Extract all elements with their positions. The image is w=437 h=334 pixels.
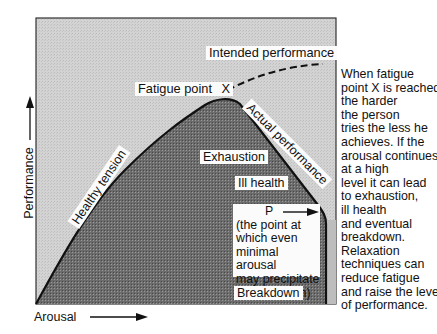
explanation-text: When fatigue point X is reached the hard… — [341, 68, 437, 313]
explanation-line: arousal continues — [341, 150, 437, 164]
p-description-line: minimal arousal — [236, 246, 320, 273]
explanation-line: and eventual — [341, 218, 437, 232]
ill-health-label: Ill health — [235, 176, 288, 190]
explanation-line: of performance. — [341, 299, 437, 313]
explanation-line: level it can lead — [341, 177, 437, 191]
explanation-line: and raise the level — [341, 286, 437, 300]
right-arrow-icon — [90, 312, 150, 322]
p-description-line: which even — [236, 232, 320, 246]
fatigue-point-marker: X — [222, 81, 231, 96]
y-axis-label-group: Performance — [13, 96, 37, 224]
y-axis-label: Performance — [22, 143, 36, 223]
explanation-line: the harder — [341, 95, 437, 109]
explanation-line: techniques can — [341, 258, 437, 272]
explanation-line: achieves. If the — [341, 136, 437, 150]
explanation-line: breakdown. — [341, 231, 437, 245]
fatigue-point-label: Fatigue point X — [135, 82, 233, 96]
explanation-line: reduce fatigue — [341, 272, 437, 286]
exhaustion-label: Exhaustion — [200, 150, 268, 164]
right-arrow-icon — [283, 207, 319, 217]
explanation-line: at a high — [341, 163, 437, 177]
p-marker: P — [265, 205, 273, 219]
explanation-line: to exhaustion, — [341, 190, 437, 204]
fatigue-point-text: Fatigue point — [138, 81, 212, 96]
p-description-line: (the point at — [236, 219, 320, 233]
explanation-line: the person — [341, 109, 437, 123]
explanation-line: When fatigue — [341, 68, 437, 82]
x-axis-label-group: Arousal — [34, 309, 150, 325]
explanation-line: ill health — [341, 204, 437, 218]
p-point-box: P (the point at which even minimal arous… — [233, 204, 320, 277]
explanation-line: point X is reached — [341, 82, 437, 96]
explanation-line: tries the less he — [341, 122, 437, 136]
explanation-line: Relaxation — [341, 245, 437, 259]
breakdown-label: Breakdown — [234, 286, 303, 300]
x-axis-label: Arousal — [34, 310, 76, 324]
right-strip — [326, 220, 336, 304]
intended-performance-label: Intended performance — [206, 46, 337, 60]
p-description-line: may precipitate — [236, 273, 320, 287]
